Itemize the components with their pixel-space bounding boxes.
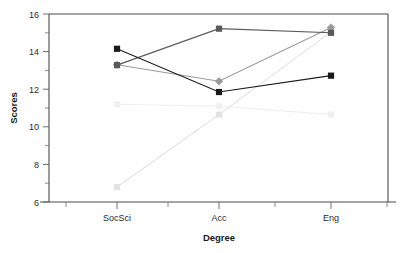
y-tick-label: 8: [34, 160, 39, 170]
x-axis-tick-labels: SocSci Acc Eng: [103, 213, 339, 223]
data-point-marker: [216, 111, 222, 117]
x-axis-title: Degree: [203, 232, 235, 243]
series-layer: [113, 23, 335, 190]
line-chart: 16 14 12 10 8 6 SocSci Acc Eng Degree Sc…: [0, 0, 401, 253]
data-point-marker: [114, 184, 120, 190]
y-axis-ticks: [43, 14, 49, 202]
y-tick-label: 10: [29, 122, 39, 132]
series-line: [117, 104, 331, 114]
chart-container: 16 14 12 10 8 6 SocSci Acc Eng Degree Sc…: [0, 0, 401, 253]
y-axis-title: Scores: [8, 92, 19, 124]
data-point-marker: [114, 46, 120, 52]
top-margin: [0, 0, 401, 6]
x-tick-label-socsci: SocSci: [103, 213, 131, 223]
x-axis-ticks: [66, 202, 387, 209]
data-point-marker: [215, 77, 223, 85]
data-point-marker: [328, 111, 334, 117]
y-tick-label: 6: [34, 198, 39, 208]
series-series-faint-flat: [114, 101, 334, 118]
data-point-marker: [114, 62, 120, 68]
y-tick-label: 12: [29, 85, 39, 95]
series-line: [117, 28, 331, 82]
series-series-light-rising: [114, 29, 334, 190]
x-tick-label-acc: Acc: [211, 213, 227, 223]
series-line: [117, 32, 331, 187]
data-point-marker: [216, 103, 222, 109]
data-point-marker: [216, 89, 222, 95]
y-axis-tick-labels: 16 14 12 10 8 6: [29, 10, 39, 208]
data-point-marker: [114, 101, 120, 107]
series-series-dark-square: [114, 46, 334, 95]
y-tick-label: 16: [29, 10, 39, 20]
series-line: [117, 29, 331, 65]
data-point-marker: [216, 26, 222, 32]
data-point-marker: [328, 30, 334, 36]
data-point-marker: [328, 73, 334, 79]
y-tick-label: 14: [29, 47, 39, 57]
x-tick-label-eng: Eng: [323, 213, 339, 223]
